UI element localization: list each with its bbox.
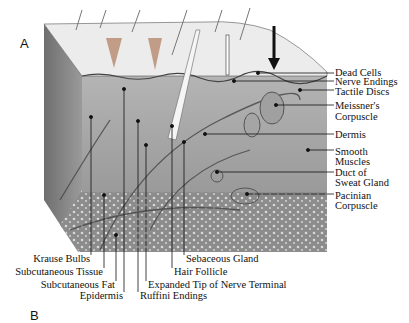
label-duct-2: Sweat Gland	[335, 177, 389, 188]
label-subcutaneous-fat: Subcutaneous Fat	[41, 279, 115, 290]
label-pacinian-2: Corpuscle	[335, 200, 378, 211]
label-tactile-discs: Tactile Discs	[335, 86, 389, 97]
label-meissners: Meissner's	[335, 100, 379, 111]
label-expanded-tip: Expanded Tip of Nerve Terminal	[148, 279, 286, 290]
label-dermis: Dermis	[335, 129, 366, 140]
panel-label-b: B	[30, 308, 39, 323]
label-ruffini-endings: Ruffini Endings	[140, 290, 207, 301]
panel-label-a: A	[20, 36, 29, 51]
subcutaneous-layer	[60, 190, 327, 252]
label-epidermis: Epidermis	[80, 290, 123, 301]
label-krause-bulbs: Krause Bulbs	[33, 253, 90, 264]
label-sebaceous-gland: Sebaceous Gland	[186, 253, 259, 264]
label-subcutaneous-tissue: Subcutaneous Tissue	[15, 266, 103, 277]
label-hair-follicle: Hair Follicle	[174, 266, 227, 277]
epidermis-surface	[44, 22, 327, 76]
label-meissners-2: Corpuscle	[335, 111, 378, 122]
label-smooth-2: Muscles	[335, 156, 370, 167]
